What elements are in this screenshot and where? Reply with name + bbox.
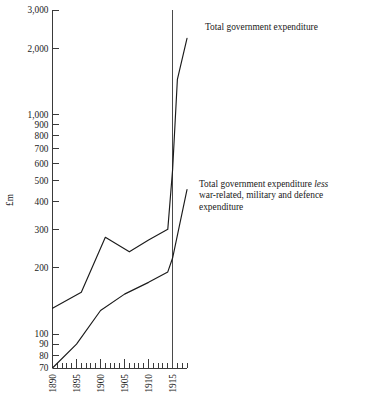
series-lines	[53, 38, 188, 368]
y-tick-label: 90	[39, 339, 49, 349]
x-tick-label: 1900	[96, 374, 106, 393]
x-axis-minor-ticks	[53, 359, 188, 368]
y-axis-tick-labels: 3,0002,0001,0009008007006005004003002001…	[28, 5, 49, 373]
annotation-less-war-expenditure: Total government expenditure lesswar-rel…	[199, 179, 369, 213]
x-axis: 189018951900190519101915	[48, 359, 187, 393]
y-tick-label: 600	[35, 159, 49, 169]
y-tick-label: 100	[35, 329, 49, 339]
y-axis: 3,0002,0001,0009008007006005004003002001…	[5, 5, 59, 373]
y-tick-label: 200	[35, 263, 49, 273]
y-axis-ticks	[53, 10, 59, 368]
series-line-less-war-expenditure	[53, 190, 188, 368]
y-tick-label: 80	[39, 351, 49, 361]
y-tick-label: 3,000	[28, 5, 49, 15]
y-tick-label: 2,000	[28, 44, 49, 54]
y-axis-title: £m	[5, 193, 15, 206]
annotation-total-expenditure: Total government expenditure	[205, 22, 318, 33]
x-axis-tick-labels: 189018951900190519101915	[48, 374, 178, 393]
y-tick-label: 900	[35, 120, 49, 130]
y-tick-label: 300	[35, 225, 49, 235]
y-tick-label: 70	[39, 363, 49, 373]
y-tick-label: 800	[35, 131, 49, 141]
x-tick-label: 1890	[48, 374, 58, 393]
x-tick-label: 1905	[120, 374, 130, 393]
chart-container: 3,0002,0001,0009008007006005004003002001…	[0, 0, 369, 412]
x-tick-label: 1915	[168, 374, 178, 393]
annotation-less-rest: war-related, military and defence expend…	[199, 190, 323, 211]
x-tick-label: 1910	[144, 374, 154, 393]
x-tick-label: 1895	[72, 374, 82, 393]
y-tick-label: 500	[35, 176, 49, 186]
series-line-total-expenditure	[53, 38, 188, 308]
y-tick-label: 400	[35, 197, 49, 207]
y-tick-label: 1,000	[28, 110, 49, 120]
annotation-less-prefix: Total government expenditure	[199, 179, 314, 189]
annotation-total-text: Total government expenditure	[205, 22, 318, 32]
y-tick-label: 700	[35, 144, 49, 154]
annotation-less-italic: less	[314, 179, 328, 189]
